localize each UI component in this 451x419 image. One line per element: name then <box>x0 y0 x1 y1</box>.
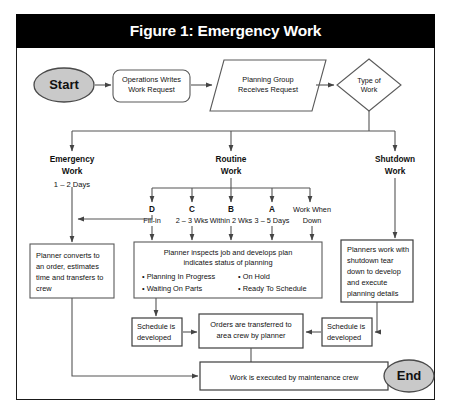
planning-group-line1: Planning Group <box>242 75 293 84</box>
planners-shutdown-line5: planning details <box>347 289 399 298</box>
branch-shutdown-title1: Shutdown <box>375 154 415 164</box>
schedule-right-line2: developed <box>327 333 361 342</box>
priority-b-timing: Within 2 Wks <box>210 216 253 225</box>
planners-shutdown-line3: down to develop <box>347 267 401 276</box>
priority-c-code: C <box>189 205 195 214</box>
schedule-left-line1: Schedule is <box>137 322 176 331</box>
flowchart-canvas: Start Operations Writes Work Request Pla… <box>16 48 435 400</box>
planner-inspects-bullet-4: • Ready To Schedule <box>238 284 307 293</box>
planner-inspects-bullet-2: • Waiting On Parts <box>142 284 203 293</box>
planner-converts-line4: crew <box>36 284 52 293</box>
type-of-work-line1: Type of <box>357 76 381 85</box>
work-executed-line1: Work is executed by maintenance crew <box>230 373 359 382</box>
orders-transferred-line2: area crew by planner <box>216 331 286 340</box>
planner-converts-line1: Planner converts to <box>36 251 100 260</box>
planner-inspects-bullet-1: • Planning In Progress <box>142 272 216 281</box>
planner-inspects-heading1: Planner inspects job and develops plan <box>164 248 293 257</box>
priority-d-code: D <box>149 205 155 214</box>
planners-shutdown-line1: Planners work with <box>347 245 409 254</box>
branch-routine-title1: Routine <box>216 154 247 164</box>
planner-converts-line2: an order, estimates <box>36 262 99 271</box>
planner-inspects-heading2: indicates status of planning <box>183 258 272 267</box>
priority-workwhen-timing: Down <box>303 216 322 225</box>
planners-shutdown-line4: and execute <box>347 278 387 287</box>
planner-inspects-bullet-3: • On Hold <box>238 272 270 281</box>
type-of-work-line2: Work <box>361 85 378 94</box>
branch-emergency-title1: Emergency <box>50 154 95 164</box>
priority-a-code: A <box>269 205 275 214</box>
branch-routine-title2: Work <box>221 166 242 176</box>
planning-group-line2: Receives Request <box>238 85 298 94</box>
planners-shutdown-line2: shutdown tear <box>347 256 394 265</box>
flowchart-svg: Start Operations Writes Work Request Pla… <box>16 48 435 400</box>
schedule-right-line1: Schedule is <box>327 322 366 331</box>
connector-shutdown-to-schedule-right <box>375 302 377 332</box>
priority-workwhen-code: Work When <box>293 205 331 214</box>
end-label: End <box>397 368 422 383</box>
figure-title-bar: Figure 1: Emergency Work <box>16 14 435 48</box>
connector-d-to-emergency <box>78 215 152 219</box>
start-label: Start <box>49 77 79 92</box>
figure-root: Figure 1: Emergency Work Start Operation… <box>0 0 451 419</box>
priority-c-timing: 2 – 3 Wks <box>176 216 209 225</box>
ops-request-line2: Work Request <box>128 85 175 94</box>
orders-transferred-line1: Orders are transferred to <box>210 320 291 329</box>
schedule-left-line2: developed <box>137 333 171 342</box>
branch-shutdown-title2: Work <box>385 166 406 176</box>
ops-request-line1: Operations Writes <box>122 75 181 84</box>
branch-emergency-title2: Work <box>62 166 83 176</box>
priority-b-code: B <box>228 205 234 214</box>
planner-converts-line3: time and transfers to <box>36 273 103 282</box>
page-title: Figure 1: Emergency Work <box>130 22 321 40</box>
priority-a-timing: 3 – 5 Days <box>255 216 290 225</box>
